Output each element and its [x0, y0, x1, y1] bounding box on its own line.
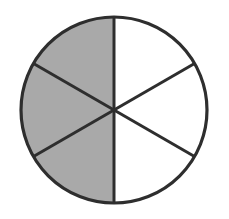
fraction-circle-diagram: Circle divided into six equal sectors wi… — [0, 0, 229, 219]
fraction-circle-figure: Circle divided into six equal sectors wi… — [0, 0, 229, 219]
